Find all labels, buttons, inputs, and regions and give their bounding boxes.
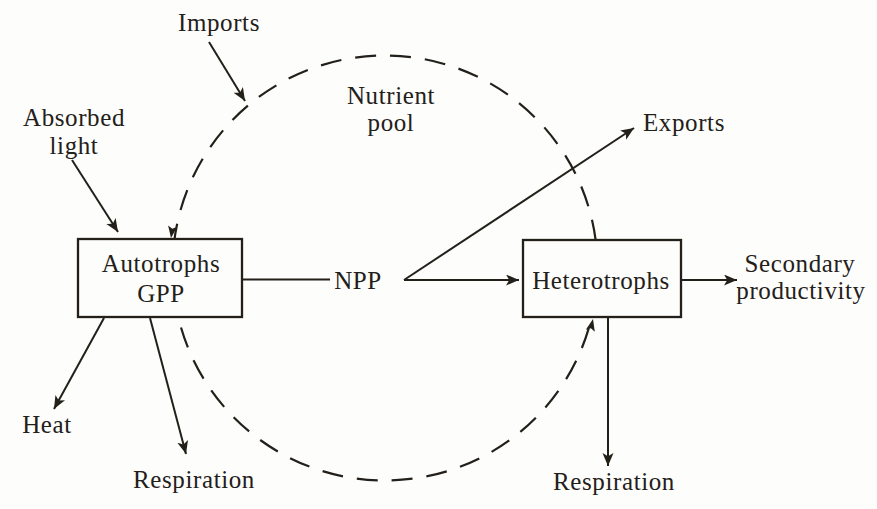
absorbed-light-label-line1: Absorbed (23, 104, 125, 131)
autotrophs-gpp-label: GPP (137, 280, 185, 307)
imports-label: Imports (178, 9, 260, 36)
npp-label: NPP (334, 267, 382, 294)
absorbed-light-arrow (72, 160, 118, 232)
ecosystem-energy-nutrient-diagram: Imports Absorbed light Nutrient pool Exp… (0, 0, 877, 509)
autotroph-respiration-arrow (150, 318, 186, 454)
nutrient-pool-label-line2: pool (368, 109, 415, 136)
autotrophs-label: Autotrophs (102, 250, 221, 277)
imports-arrow (209, 42, 245, 101)
nutrient-pool-label-line1: Nutrient (347, 82, 435, 109)
heat-label: Heat (22, 411, 72, 438)
secondary-productivity-label-line2: productivity (736, 277, 865, 304)
heterotrophs-label: Heterotrophs (532, 267, 670, 294)
heat-arrow (54, 318, 104, 409)
secondary-productivity-label-line1: Secondary (745, 250, 856, 277)
heterotroph-respiration-label: Respiration (553, 468, 675, 495)
exports-label: Exports (643, 109, 725, 136)
autotroph-respiration-label: Respiration (133, 466, 255, 493)
absorbed-light-label-line2: light (50, 132, 99, 159)
